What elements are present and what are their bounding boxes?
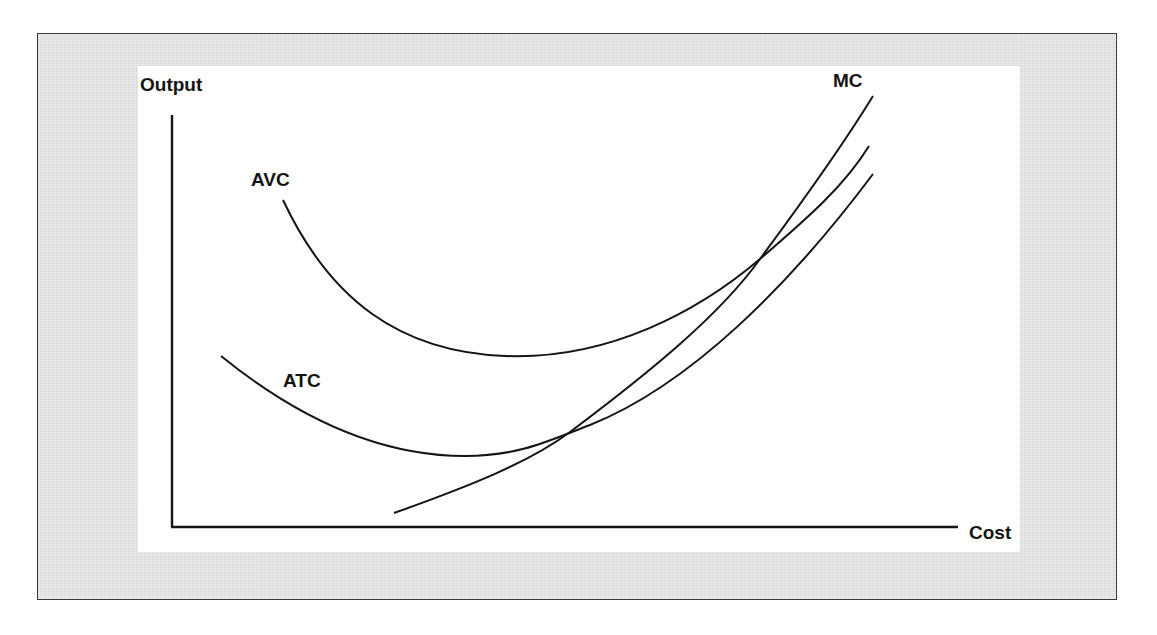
mc-label: MC xyxy=(833,71,863,90)
y-axis-label: Output xyxy=(140,75,202,94)
atc-curve xyxy=(221,174,873,456)
x-axis-label: Cost xyxy=(969,523,1011,542)
avc-label: AVC xyxy=(251,170,290,189)
avc-curve xyxy=(283,146,869,356)
chart-figure: Output Cost MC AVC ATC xyxy=(0,0,1157,635)
mc-curve xyxy=(394,96,873,513)
atc-label: ATC xyxy=(283,371,321,390)
